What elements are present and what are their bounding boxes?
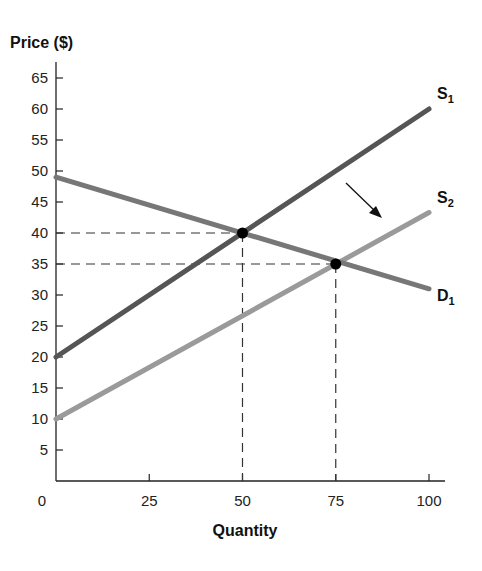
x-tick-label: 0	[38, 492, 46, 509]
y-tick-label: 10	[31, 410, 48, 427]
y-tick-label: 55	[31, 131, 48, 148]
equilibrium-point	[237, 228, 248, 239]
y-tick-label: 15	[31, 379, 48, 396]
x-tick-label: 50	[234, 492, 251, 509]
x-tick-label: 75	[327, 492, 344, 509]
y-tick-label: 60	[31, 100, 48, 117]
curve-label-s2: S2	[437, 189, 454, 209]
curve-label-d1: D1	[437, 287, 455, 307]
x-axis-title: Quantity	[213, 522, 278, 539]
y-tick-label: 50	[31, 162, 48, 179]
y-tick-label: 45	[31, 193, 48, 210]
y-tick-label: 5	[40, 441, 48, 458]
equilibrium-point	[330, 259, 341, 270]
y-tick-label: 65	[31, 69, 48, 86]
curves: S1S2D1	[56, 85, 455, 419]
y-tick-label: 20	[31, 348, 48, 365]
y-tick-label: 25	[31, 317, 48, 334]
x-tick-label: 25	[141, 492, 158, 509]
supply-demand-chart: Price ($) 5101520253035404550556065 0255…	[0, 0, 482, 571]
curve-label-s1: S1	[437, 85, 454, 105]
y-tick-label: 30	[31, 286, 48, 303]
y-tick-label: 35	[31, 255, 48, 272]
x-axis-ticks: 0255075100	[38, 474, 442, 509]
y-tick-label: 40	[31, 224, 48, 241]
y-axis-title: Price ($)	[10, 34, 73, 51]
x-tick-label: 100	[416, 492, 441, 509]
equilibrium-guide-lines	[56, 233, 336, 481]
axes	[56, 62, 445, 481]
shift-arrow-icon	[346, 183, 382, 218]
